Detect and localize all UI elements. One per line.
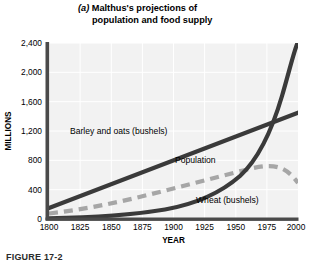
y-tick-label: 1,200 (21, 126, 42, 136)
x-tick-label: 1925 (195, 222, 214, 232)
y-tick-label: 2,400 (21, 38, 42, 48)
chart-plot: 0 400 800 1,200 1,600 2,000 2,400 MILLIO… (0, 0, 316, 261)
figure-panel: (a) Malthus's projections of population … (0, 0, 316, 261)
x-tick-label: 1900 (164, 222, 183, 232)
figure-caption: FIGURE 17-2 (6, 252, 63, 261)
x-tick-label: 1975 (258, 222, 277, 232)
x-tick-label: 1850 (102, 222, 121, 232)
series-label-wheat: Wheat (bushels) (196, 195, 259, 205)
x-tick-label: 1800 (40, 222, 59, 232)
y-tick-label: 400 (28, 185, 42, 195)
x-tick-labels: 1800 1825 1850 1875 1900 1925 1950 1975 … (40, 222, 306, 232)
y-tick-labels: 0 400 800 1,200 1,600 2,000 2,400 (21, 38, 42, 224)
x-axis-line (46, 218, 299, 221)
x-tick-label: 1825 (71, 222, 90, 232)
x-axis-title: YEAR (162, 236, 185, 245)
x-tick-label: 2000 (287, 222, 306, 232)
series-label-population: Population (175, 155, 216, 165)
y-tick-label: 800 (28, 155, 42, 165)
x-tick-label: 1875 (133, 222, 152, 232)
y-axis-title: MILLIONS (4, 111, 13, 151)
x-tick-label: 1950 (226, 222, 245, 232)
series-label-barley: Barley and oats (bushels) (70, 126, 168, 136)
y-tick-label: 2,000 (21, 67, 42, 77)
y-axis-line (46, 42, 50, 220)
y-tick-label: 1,600 (21, 97, 42, 107)
